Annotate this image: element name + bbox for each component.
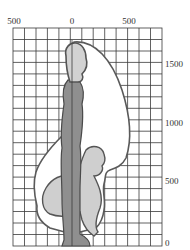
y-label-1000: 1000 [165,119,183,128]
x-label-0: 0 [70,17,75,26]
y-label-0: 0 [165,239,170,248]
x-label-left-500: 500 [7,17,21,26]
posture-diagram: 500 0 500 1500 1000 500 0 [0,0,190,250]
y-label-500: 500 [165,177,179,186]
y-label-1500: 1500 [165,60,183,69]
x-label-right-500: 500 [122,17,136,26]
